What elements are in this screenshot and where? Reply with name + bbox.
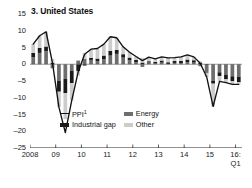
chart-panel: 3. United States 151050–5–10–15–20–25 20… xyxy=(0,0,252,188)
bar-segment xyxy=(186,60,190,63)
legend-line-marker xyxy=(60,113,69,114)
bar-segment xyxy=(218,72,222,76)
bar-segment xyxy=(31,44,35,53)
legend-item-ppi: PPI1 xyxy=(60,108,116,119)
bar-segment xyxy=(147,61,151,62)
bar-segment xyxy=(128,60,132,64)
bar-segment xyxy=(211,64,215,80)
bar-segment xyxy=(224,64,228,75)
x-axis-tick-label: 14 xyxy=(170,151,198,160)
bar-segment xyxy=(108,56,112,65)
bar-segment xyxy=(89,60,93,64)
bar-segment xyxy=(44,46,48,51)
legend-item-other: Other xyxy=(124,120,159,129)
bar-segment xyxy=(76,61,80,65)
bar-segment xyxy=(231,64,235,76)
bar-segment xyxy=(108,51,112,56)
bar-segment xyxy=(102,59,106,64)
bar-segment xyxy=(102,56,106,60)
bar-segment xyxy=(134,62,138,64)
x-axis-tick-label: 16:Q1 xyxy=(222,151,250,168)
bar-segment xyxy=(218,76,222,81)
bar-segment xyxy=(121,58,125,65)
y-axis-tick-label: –10 xyxy=(13,94,26,102)
bar-segment xyxy=(102,44,106,55)
y-axis-tick-label: 15 xyxy=(18,10,26,18)
bar-segment xyxy=(57,81,61,92)
legend-swatch xyxy=(124,112,133,116)
bar-segment xyxy=(192,60,196,62)
y-axis-tick-label: –15 xyxy=(13,111,26,119)
bar-segment xyxy=(160,61,164,63)
bar-segment xyxy=(128,58,132,61)
x-axis-tick-label: 09 xyxy=(42,151,70,160)
y-axis-tick-label: 5 xyxy=(22,44,26,52)
y-axis-labels: 151050–5–10–15–20–25 xyxy=(0,0,26,188)
bar-segment xyxy=(31,57,35,64)
x-axis-tick-label: 12 xyxy=(119,151,147,160)
y-axis-tick-label: 10 xyxy=(18,27,26,35)
x-axis-tick-label: 13 xyxy=(144,151,172,160)
bar-segment xyxy=(96,49,100,59)
bar-segment xyxy=(63,79,67,93)
bar-segment xyxy=(63,64,67,79)
stacked-bars xyxy=(31,32,240,119)
legend-item-industrial: Industrial gap xyxy=(60,120,116,129)
bar-segment xyxy=(38,48,42,53)
bar-segment xyxy=(231,76,235,81)
x-axis-tick-label: 2008 xyxy=(16,151,44,160)
bar-segment xyxy=(115,50,119,54)
bar-segment xyxy=(141,64,145,67)
bar-segment xyxy=(121,54,125,57)
y-axis-tick-label: 0 xyxy=(22,60,26,68)
bar-segment xyxy=(179,61,183,63)
bar-segment xyxy=(153,62,157,64)
bar-segment xyxy=(134,60,138,62)
x-axis-tick-label: 15 xyxy=(196,151,224,160)
legend-label: PPI1 xyxy=(72,108,87,119)
bar-segment xyxy=(44,51,48,64)
bar-segment xyxy=(38,53,42,64)
bar-segment xyxy=(224,75,228,79)
bar-segment xyxy=(173,61,177,63)
bar-segment xyxy=(237,64,241,76)
legend-label: Energy xyxy=(136,109,159,118)
bar-segment xyxy=(166,62,170,64)
legend-swatch xyxy=(60,123,69,127)
bar-segment xyxy=(218,64,222,72)
bar-segment xyxy=(186,62,190,64)
bar-segment xyxy=(211,81,215,84)
bar-segment xyxy=(57,64,61,81)
y-axis-tick-label: –5 xyxy=(18,77,26,85)
bar-segment xyxy=(237,77,241,82)
legend-item-energy: Energy xyxy=(124,108,159,119)
x-axis-tick-label: 10 xyxy=(67,151,95,160)
bar-segment xyxy=(205,64,209,73)
legend-label: Industrial gap xyxy=(72,120,116,129)
legend-swatch xyxy=(124,123,133,127)
legend-label: Other xyxy=(136,120,154,129)
bar-segment xyxy=(70,64,74,71)
bar-segment xyxy=(96,59,100,62)
y-axis-tick-label: –20 xyxy=(13,127,26,135)
bar-segment xyxy=(96,61,100,64)
bar-segment xyxy=(70,71,74,83)
chart-legend: PPI1EnergyIndustrial gapOther xyxy=(60,108,159,129)
x-axis-tick-label: 11 xyxy=(93,151,121,160)
bar-segment xyxy=(115,54,119,64)
bar-segment xyxy=(31,53,35,57)
bar-segment xyxy=(89,58,93,60)
